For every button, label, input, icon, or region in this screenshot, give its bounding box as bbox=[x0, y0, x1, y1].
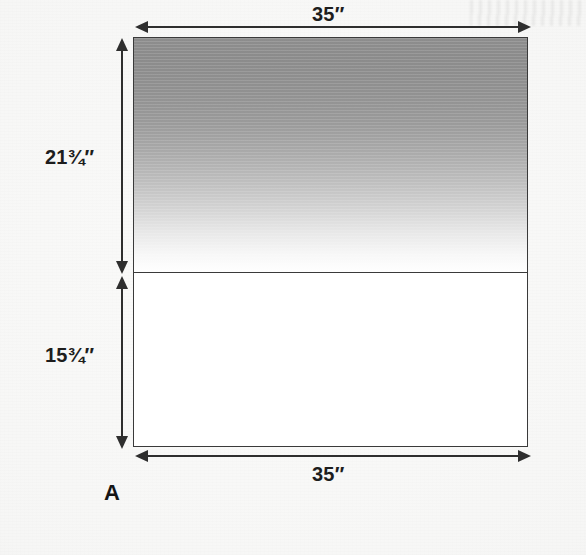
lower-height-dimension-line bbox=[121, 288, 123, 436]
top-width-label: 35″ bbox=[312, 3, 344, 26]
upper-shaded-section bbox=[134, 38, 527, 273]
top-width-arrow-right-icon bbox=[518, 21, 531, 33]
upper-height-arrow-up-icon bbox=[116, 38, 128, 51]
bottom-width-arrow-right-icon bbox=[518, 450, 531, 462]
upper-height-arrow-down-icon bbox=[116, 261, 128, 274]
top-width-dimension-line bbox=[148, 26, 518, 28]
bottom-width-label: 35″ bbox=[312, 463, 344, 486]
bottom-width-arrow-left-icon bbox=[135, 450, 148, 462]
upper-section-texture bbox=[134, 38, 527, 273]
upper-height-dimension-line bbox=[121, 50, 123, 261]
lower-height-arrow-down-icon bbox=[116, 436, 128, 449]
lower-height-label: 15¾″ bbox=[45, 344, 94, 367]
lower-height-arrow-up-icon bbox=[116, 276, 128, 289]
top-width-arrow-left-icon bbox=[135, 21, 148, 33]
upper-height-label: 21¾″ bbox=[45, 146, 94, 169]
bottom-width-dimension-line bbox=[148, 455, 518, 457]
section-divider-line bbox=[133, 272, 528, 273]
figure-letter-label: A bbox=[104, 480, 120, 506]
scanned-figure-page: 35″ 21¾″ 15¾″ 35″ A bbox=[0, 0, 586, 555]
dimensioned-rectangle-figure: 35″ 21¾″ 15¾″ 35″ A bbox=[0, 0, 586, 555]
